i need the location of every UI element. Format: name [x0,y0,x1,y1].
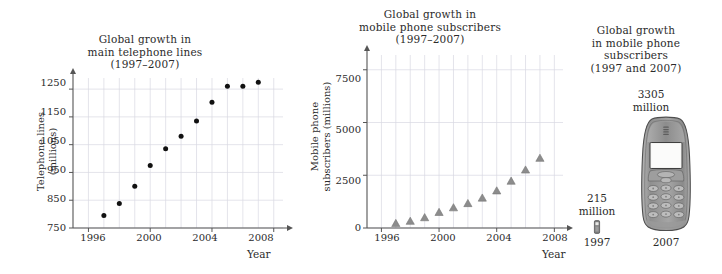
value-2007-number: 3305 [621,88,681,101]
panel-mobile-subscribers-pictogram: Global growth in mobile phone subscriber… [560,0,722,274]
value-1997-unit: million [571,205,623,218]
phone-icon-2007 [638,116,694,236]
plot-area-telephone-lines [0,0,290,274]
plot-area-mobile-subscribers [280,0,570,274]
value-label-2007: 3305 million [621,88,681,113]
panel-mobile-subscribers: Global growth in mobile phone subscriber… [280,0,570,274]
panel-telephone-lines: Global growth in main telephone lines (1… [0,0,290,274]
title-line-2: in mobile phone [561,37,711,50]
value-label-1997: 215 million [571,192,623,217]
title-line-1: Global growth [561,24,711,37]
category-label-2007: 2007 [643,236,689,248]
title-line-4: (1997 and 2007) [561,62,711,75]
chart-title-pictogram: Global growth in mobile phone subscriber… [561,24,711,74]
title-line-3: subscribers [561,49,711,62]
value-2007-unit: million [621,101,681,114]
value-1997-number: 215 [571,192,623,205]
category-label-1997: 1997 [574,236,620,248]
